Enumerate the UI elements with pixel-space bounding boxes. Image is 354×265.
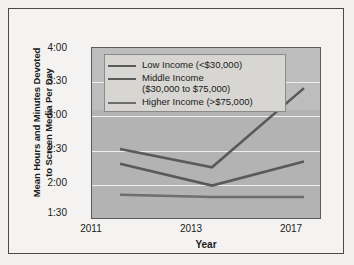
y-axis-title: Mean Hours and Minutes Devoted to Screen… — [31, 28, 54, 218]
legend-label-low-income: Low Income (<$30,000) — [142, 59, 242, 70]
y-tick-230: 2:30 — [27, 144, 67, 154]
y-tick-200: 2:00 — [27, 178, 67, 188]
legend-item-higher-income: Higher Income (>$75,000) — [108, 96, 281, 107]
legend-swatch-low-income — [108, 65, 136, 67]
legend-item-low-income: Low Income (<$30,000) — [108, 59, 281, 70]
x-tick-2013: 2013 — [161, 223, 221, 234]
x-tick-2017: 2017 — [261, 223, 321, 234]
figure-frame: Mean Hours and Minutes Devoted to Screen… — [8, 8, 344, 254]
line-middle-income — [120, 162, 304, 186]
line-higher-income — [120, 195, 304, 197]
x-tick-2011: 2011 — [61, 223, 121, 234]
chart-legend: Low Income (<$30,000) Middle Income ($30… — [104, 54, 286, 112]
x-axis-title: Year — [91, 239, 321, 250]
y-tick-130: 1:30 — [27, 208, 67, 218]
legend-label-middle-income: Middle Income ($30,000 to $75,000) — [142, 72, 230, 94]
y-tick-300: 3:00 — [27, 110, 67, 120]
legend-swatch-middle-income — [108, 78, 136, 80]
y-axis-title-line2: to Screen Media Per Day — [42, 28, 54, 218]
y-tick-400: 4:00 — [27, 43, 67, 53]
legend-label-higher-income: Higher Income (>$75,000) — [142, 96, 253, 107]
legend-swatch-higher-income — [108, 102, 136, 104]
plot-area: Low Income (<$30,000) Middle Income ($30… — [91, 47, 321, 219]
y-tick-330: 3:30 — [27, 76, 67, 86]
legend-item-middle-income: Middle Income ($30,000 to $75,000) — [108, 72, 281, 94]
chart-figure: Mean Hours and Minutes Devoted to Screen… — [0, 0, 354, 265]
y-axis-title-line1: Mean Hours and Minutes Devoted — [31, 48, 42, 198]
